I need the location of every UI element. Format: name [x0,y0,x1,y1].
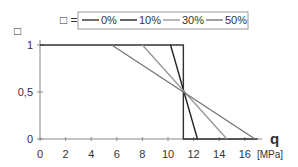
y-tick-label: 1 [27,39,33,51]
legend-item: 0% [101,14,117,26]
series-line [40,45,258,139]
legend-item: 50% [225,14,247,26]
chart: 024681012141600,51[MPa]q□□ =0%10%30%50% [0,0,298,167]
x-tick-label: 8 [139,148,145,160]
x-tick-label: 14 [213,148,225,160]
x-tick-label: 2 [63,148,69,160]
y-tick-label: 0,5 [18,86,33,98]
x-tick-label: 12 [187,148,199,160]
chart-svg: 024681012141600,51[MPa]q□□ =0%10%30%50% [0,0,298,167]
legend-item: 30% [182,14,204,26]
y-axis-label: □ [14,24,21,38]
x-unit: [MPa] [257,149,283,160]
legend-prefix: □ = [60,13,78,27]
x-tick-label: 4 [88,148,94,160]
legend-item: 10% [139,14,161,26]
x-tick-label: 0 [37,148,43,160]
y-tick-label: 0 [27,133,33,145]
x-tick-label: 6 [114,148,120,160]
x-tick-label: 10 [162,148,174,160]
series-line [142,45,226,139]
x-axis-label: q [270,130,279,147]
x-tick-label: 16 [239,148,251,160]
